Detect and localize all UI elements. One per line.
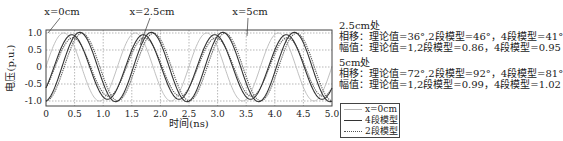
info-heading: 5cm处: [339, 57, 563, 68]
y-tick-label: 1.0: [28, 28, 43, 38]
x-tick-label: 2.0: [153, 109, 168, 119]
y-tick-label: 0.5: [28, 45, 43, 55]
x-tick-label: 1.0: [96, 109, 111, 119]
legend: x=0cm 4段模型 2段模型: [340, 103, 400, 138]
legend-item-2seg: 2段模型: [341, 126, 399, 137]
info-phase-line: 相移：理论值=36°,2段模型=46°，4段模型=41°: [339, 31, 563, 42]
info-amplitude-line: 幅值：理论值=1,2段模型=0.86，4段模型=0.95: [339, 42, 563, 53]
legend-item-x0: x=0cm: [341, 104, 399, 115]
x-tick-label: 0.5: [67, 109, 82, 119]
x-tick-label: 0: [43, 109, 49, 119]
x-tick-label: 3.5: [239, 109, 254, 119]
callout-leader-line: [140, 18, 150, 45]
info-block-5cm: 5cm处 相移：理论值=72°,2段模型=92°，4段模型=81° 幅值：理论值…: [339, 57, 563, 90]
legend-swatch-light-line: [344, 109, 362, 110]
callout-label: x=5cm: [232, 6, 268, 17]
callout-label: x=0cm: [44, 6, 80, 17]
x-tick-label: 4.5: [296, 109, 311, 119]
y-tick-label: -1.0: [25, 96, 43, 106]
info-heading: 2.5cm处: [339, 20, 563, 31]
x-tick-label: 5.0: [325, 109, 340, 119]
grid: [46, 30, 332, 106]
info-phase-line: 相移：理论值=72°,2段模型=92°，4段模型=81°: [339, 68, 563, 79]
legend-item-4seg: 4段模型: [341, 115, 399, 126]
y-tick-label: 0: [36, 62, 42, 72]
legend-swatch-solid-line: [344, 120, 362, 121]
x-tick-label: 4.0: [268, 109, 283, 119]
legend-label: 4段模型: [365, 115, 398, 126]
x-axis-label: 时间(ns): [169, 117, 208, 129]
x-tick-label: 3.0: [210, 109, 225, 119]
info-amplitude-line: 幅值：理论值=1,2段模型=0.99，4段模型=1.02: [339, 79, 563, 90]
y-tick-labels: 1.00.50-0.5-1.0: [25, 28, 43, 106]
y-tick-label: -0.5: [25, 79, 43, 89]
y-axis-label: 电压(p.u.): [4, 44, 16, 91]
legend-swatch-dotted-line: [344, 131, 362, 132]
x-tick-label: 1.5: [125, 109, 140, 119]
legend-label: 2段模型: [365, 126, 398, 137]
plot-frame: [46, 30, 332, 106]
callout-label: x=2.5cm: [129, 6, 175, 17]
callout-leader-line: [48, 18, 60, 33]
info-block-2-5cm: 2.5cm处 相移：理论值=36°,2段模型=46°，4段模型=41° 幅值：理…: [339, 20, 563, 53]
legend-label: x=0cm: [365, 104, 397, 115]
